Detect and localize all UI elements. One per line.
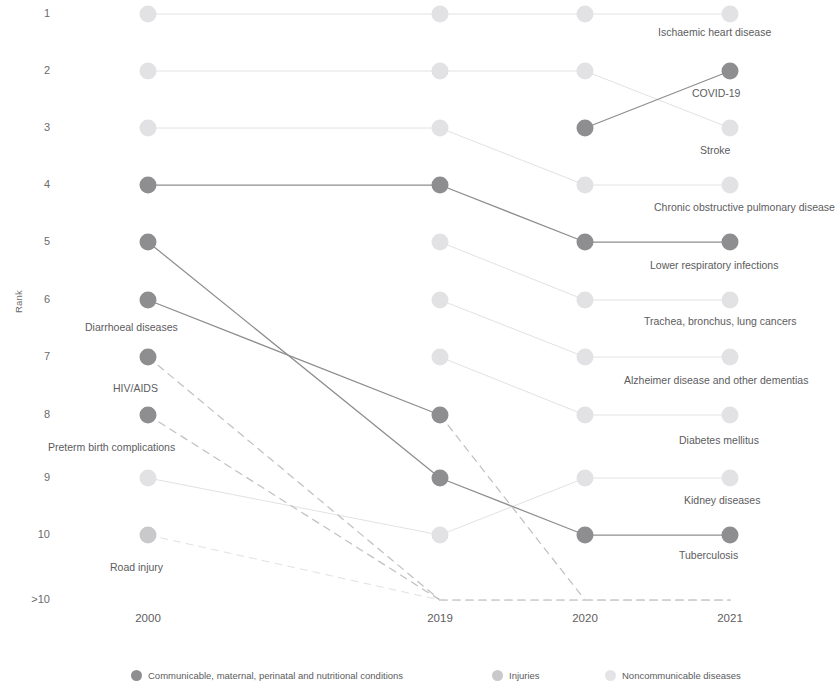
legend-swatch-icon — [492, 670, 503, 681]
series-label: Diarrhoeal diseases — [85, 322, 178, 333]
y-tick-3: 3 — [6, 121, 50, 133]
rank-link — [148, 300, 440, 415]
rank-node[interactable] — [722, 177, 739, 194]
legend-swatch-icon — [131, 670, 142, 681]
rank-node[interactable] — [432, 349, 449, 366]
rank-node[interactable] — [577, 63, 594, 80]
legend-label: Noncommunicable diseases — [622, 670, 741, 681]
legend-item-2[interactable]: Noncommunicable diseases — [605, 670, 741, 681]
rank-link — [440, 357, 585, 415]
rank-node[interactable] — [140, 470, 157, 487]
series-label: Road injury — [110, 562, 163, 573]
y-tick-10: 10 — [6, 528, 50, 540]
rank-link — [148, 535, 440, 600]
rank-node[interactable] — [577, 527, 594, 544]
rank-node[interactable] — [432, 120, 449, 137]
rank-node[interactable] — [432, 6, 449, 23]
x-tick-2019: 2019 — [400, 612, 480, 624]
rank-node[interactable] — [722, 407, 739, 424]
rank-node[interactable] — [577, 6, 594, 23]
series-label: HIV/AIDS — [113, 383, 158, 394]
rank-node[interactable] — [432, 292, 449, 309]
series-label: Ischaemic heart disease — [658, 27, 771, 38]
y-tick-2: 2 — [6, 64, 50, 76]
series-label: Diabetes mellitus — [679, 435, 759, 446]
x-tick-2021: 2021 — [690, 612, 770, 624]
rank-node[interactable] — [722, 470, 739, 487]
series-label: Trachea, bronchus, lung cancers — [644, 316, 797, 327]
rank-node[interactable] — [577, 407, 594, 424]
y-tick-4: 4 — [6, 178, 50, 190]
legend-swatch-icon — [605, 670, 616, 681]
y-tick-1: 1 — [6, 7, 50, 19]
rank-node[interactable] — [722, 6, 739, 23]
legend-item-0[interactable]: Communicable, maternal, perinatal and nu… — [131, 670, 403, 681]
series-label: COVID-19 — [692, 88, 740, 99]
rank-link — [440, 300, 585, 357]
y-tick-9: 9 — [6, 471, 50, 483]
rank-node[interactable] — [140, 6, 157, 23]
y-tick-7: 7 — [6, 350, 50, 362]
rank-nodes-group — [140, 6, 739, 544]
series-label: Kidney diseases — [684, 495, 760, 506]
rank-link — [148, 357, 440, 600]
rank-node[interactable] — [140, 527, 157, 544]
rank-node[interactable] — [140, 292, 157, 309]
rank-node[interactable] — [432, 234, 449, 251]
y-tick-5: 5 — [6, 235, 50, 247]
rank-node[interactable] — [140, 349, 157, 366]
series-label: Preterm birth complications — [48, 442, 175, 453]
rank-node[interactable] — [432, 407, 449, 424]
chart-legend: Communicable, maternal, perinatal and nu… — [0, 660, 830, 692]
series-label: Stroke — [700, 145, 730, 156]
legend-label: Injuries — [509, 670, 540, 681]
y-tick-8: 8 — [6, 408, 50, 420]
rank-node[interactable] — [577, 177, 594, 194]
series-label: Alzheimer disease and other dementias — [624, 375, 808, 386]
rank-node[interactable] — [577, 120, 594, 137]
rank-node[interactable] — [140, 63, 157, 80]
rank-link — [440, 128, 585, 185]
y-tick-6: 6 — [6, 293, 50, 305]
rank-node[interactable] — [722, 292, 739, 309]
rank-node[interactable] — [432, 177, 449, 194]
rank-node[interactable] — [577, 292, 594, 309]
rank-node[interactable] — [140, 120, 157, 137]
rank-node[interactable] — [722, 234, 739, 251]
rank-node[interactable] — [722, 349, 739, 366]
legend-item-1[interactable]: Injuries — [492, 670, 540, 681]
x-tick-2020: 2020 — [545, 612, 625, 624]
rank-link — [148, 478, 440, 535]
rank-node[interactable] — [722, 527, 739, 544]
rank-node[interactable] — [577, 349, 594, 366]
rank-link — [440, 415, 585, 600]
rank-node[interactable] — [140, 234, 157, 251]
rank-node[interactable] — [432, 527, 449, 544]
series-label: Lower respiratory infections — [650, 260, 778, 271]
rank-link — [440, 242, 585, 300]
rank-node[interactable] — [140, 407, 157, 424]
rank-node[interactable] — [140, 177, 157, 194]
rank-node[interactable] — [577, 470, 594, 487]
x-tick-2000: 2000 — [108, 612, 188, 624]
rank-node[interactable] — [432, 63, 449, 80]
legend-label: Communicable, maternal, perinatal and nu… — [148, 670, 403, 681]
rank-node[interactable] — [432, 470, 449, 487]
rank-node[interactable] — [577, 234, 594, 251]
y-tick-gt10: >10 — [6, 593, 50, 605]
rank-node[interactable] — [722, 63, 739, 80]
rank-node[interactable] — [722, 120, 739, 137]
series-label: Tuberculosis — [679, 550, 738, 561]
rank-link — [440, 185, 585, 242]
series-label: Chronic obstructive pulmonary disease — [654, 202, 835, 213]
